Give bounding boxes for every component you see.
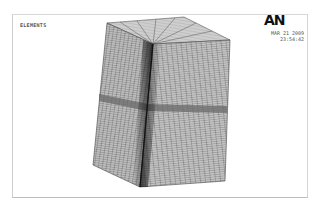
finite-element-mesh[interactable] <box>0 0 318 211</box>
